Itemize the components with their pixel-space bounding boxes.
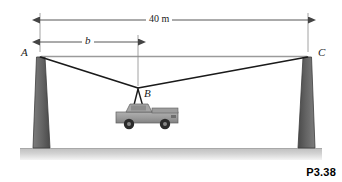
point-label-c: C bbox=[318, 47, 325, 58]
figure-container: 40 m b A B C P3.38 bbox=[0, 0, 342, 182]
truck-load bbox=[116, 104, 178, 129]
diagram-canvas bbox=[0, 0, 342, 182]
truck-cab-window bbox=[131, 106, 146, 111]
truck-wheel-front-hub bbox=[127, 122, 131, 126]
dimension-label-span-b: b bbox=[82, 35, 94, 46]
point-label-b: B bbox=[144, 88, 151, 99]
truck-tailgate-latch bbox=[171, 115, 176, 118]
dimension-label-span-total: 40 m bbox=[146, 14, 172, 24]
point-label-a: A bbox=[21, 47, 28, 58]
ground-strip bbox=[20, 148, 322, 160]
cable-ab bbox=[41, 57, 139, 88]
figure-caption: P3.38 bbox=[306, 166, 336, 178]
tower-right bbox=[298, 57, 315, 148]
cable-bc bbox=[138, 57, 308, 88]
truck-bed-rail bbox=[152, 108, 178, 113]
truck-wheel-rear-hub bbox=[163, 122, 167, 126]
tower-left bbox=[33, 57, 50, 148]
